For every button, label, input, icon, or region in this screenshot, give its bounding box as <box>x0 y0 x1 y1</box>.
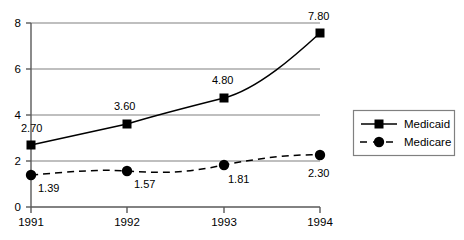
legend-square-marker-icon <box>375 120 384 129</box>
series-medicaid-point-1993 <box>220 94 229 103</box>
series-medicare-point-1991 <box>26 170 36 180</box>
data-label-medicaid-1991: 2.70 <box>21 122 42 134</box>
series-medicaid-point-1992 <box>123 120 132 129</box>
x-tick-label-1992: 1992 <box>114 216 140 228</box>
y-tick-label-4: 4 <box>15 109 22 121</box>
series-medicaid-point-1994 <box>316 29 325 38</box>
x-tick-label-1993: 1993 <box>211 216 237 228</box>
legend-label-medicare: Medicare <box>404 136 451 148</box>
y-tick-label-0: 0 <box>15 201 21 213</box>
data-label-medicaid-1992: 3.60 <box>114 100 135 112</box>
legend-circle-marker-icon <box>374 137 384 147</box>
data-label-medicare-1991: 1.39 <box>38 182 59 194</box>
chart-legend: Medicaid Medicare <box>354 111 455 156</box>
series-medicare-point-1993 <box>219 160 229 170</box>
legend-label-medicaid: Medicaid <box>404 118 450 130</box>
data-label-medicaid-1993: 4.80 <box>212 74 233 86</box>
line-chart: 8 6 4 2 0 1991 1992 1993 1994 <box>0 0 464 240</box>
series-medicare-point-1992 <box>122 166 132 176</box>
data-label-medicare-1993: 1.81 <box>228 173 249 185</box>
series-medicare-point-1994 <box>315 150 325 160</box>
x-tick-label-1991: 1991 <box>18 216 44 228</box>
data-label-medicare-1992: 1.57 <box>134 178 155 190</box>
x-tick-label-1994: 1994 <box>307 216 333 228</box>
y-tick-label-8: 8 <box>15 17 21 29</box>
data-label-medicare-1994: 2.30 <box>308 167 329 179</box>
chart-canvas: 8 6 4 2 0 1991 1992 1993 1994 <box>0 0 464 240</box>
y-tick-label-6: 6 <box>15 63 21 75</box>
y-tick-label-2: 2 <box>15 155 21 167</box>
data-label-medicaid-1994: 7.80 <box>308 10 329 22</box>
series-medicaid-point-1991 <box>27 141 36 150</box>
